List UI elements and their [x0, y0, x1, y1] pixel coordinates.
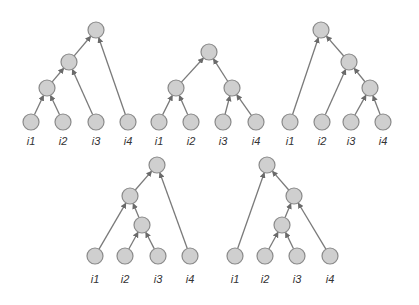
leaf-label: i3 [154, 273, 163, 285]
internal-node [168, 80, 184, 96]
tree-diagram-canvas: i1i2i3i4i1i2i3i4i1i2i3i4i1i2i3i4i1i2i3i4 [0, 0, 419, 305]
internal-node [39, 80, 55, 96]
leaf-node-i4 [375, 114, 391, 130]
tree-edge [373, 96, 380, 115]
leaf-label: i4 [326, 273, 335, 285]
internal-node [224, 80, 240, 96]
leaf-node-i4 [182, 248, 198, 264]
tree-edge [214, 59, 228, 81]
tree-edge [99, 38, 126, 114]
leaf-node-i3 [343, 114, 359, 130]
tree-edge [160, 173, 187, 248]
trees-layer: i1i2i3i4i1i2i3i4i1i2i3i4i1i2i3i4i1i2i3i4 [23, 22, 391, 285]
leaf-label: i1 [231, 273, 240, 285]
tree-edge [225, 96, 230, 114]
tree-edge [146, 233, 154, 249]
leaf-label: i2 [121, 273, 130, 285]
tree-edge [135, 171, 151, 190]
internal-node [286, 188, 302, 204]
leaf-label: i4 [186, 273, 195, 285]
leaf-label: i4 [252, 135, 261, 147]
leaf-label: i1 [27, 135, 36, 147]
internal-node [274, 217, 290, 233]
leaf-node-i3 [88, 114, 104, 130]
tree-edge [179, 96, 187, 115]
leaf-node-i2 [257, 248, 273, 264]
tree-2: i1i2i3i4 [151, 44, 264, 147]
tree-edge [293, 38, 319, 114]
tree-edge [325, 70, 345, 115]
tree-edge [99, 203, 126, 249]
tree-edge [354, 69, 365, 82]
internal-node [149, 157, 165, 173]
tree-edge [269, 232, 278, 249]
tree-edge [273, 171, 289, 190]
internal-node [201, 44, 217, 60]
tree-edge [285, 204, 291, 218]
internal-node [134, 217, 150, 233]
leaf-node-i1 [151, 114, 167, 130]
leaf-node-i2 [55, 114, 71, 130]
tree-edge [327, 36, 344, 56]
leaf-label: i3 [92, 135, 101, 147]
tree-edge [238, 173, 265, 248]
leaf-label: i3 [293, 273, 302, 285]
tree-edge [237, 95, 251, 116]
internal-node [341, 54, 357, 70]
internal-node [88, 22, 104, 38]
leaf-label: i2 [318, 135, 327, 147]
tree-edge [133, 204, 139, 218]
leaf-node-i1 [23, 114, 39, 130]
tree-3: i1i2i3i4 [282, 22, 391, 147]
internal-node [122, 188, 138, 204]
leaf-label: i3 [219, 135, 228, 147]
leaf-label: i1 [155, 135, 164, 147]
tree-1: i1i2i3i4 [23, 22, 136, 147]
tree-edge [72, 70, 92, 115]
leaf-label: i1 [286, 135, 295, 147]
leaf-node-i2 [314, 114, 330, 130]
leaf-node-i1 [87, 248, 103, 264]
tree-edge [298, 203, 326, 249]
leaf-node-i3 [289, 248, 305, 264]
leaf-label: i4 [379, 135, 388, 147]
leaf-label: i2 [261, 273, 270, 285]
tree-4: i1i2i3i4 [87, 157, 198, 285]
leaf-node-i2 [117, 248, 133, 264]
tree-edge [34, 96, 43, 115]
tree-edge [355, 95, 366, 115]
leaf-label: i2 [187, 135, 196, 147]
tree-edge [52, 68, 63, 81]
internal-node [313, 22, 329, 38]
leaf-node-i4 [322, 248, 338, 264]
leaf-label: i3 [347, 135, 356, 147]
leaf-node-i2 [183, 114, 199, 130]
internal-node [362, 80, 378, 96]
leaf-label: i1 [91, 273, 100, 285]
leaf-node-i3 [215, 114, 231, 130]
tree-edge [74, 36, 90, 55]
internal-node [259, 157, 275, 173]
leaf-node-i4 [248, 114, 264, 130]
internal-node [61, 54, 77, 70]
leaf-label: i4 [124, 135, 133, 147]
leaf-label: i2 [59, 135, 68, 147]
tree-edge [181, 58, 203, 82]
tree-5: i1i2i3i4 [227, 157, 338, 285]
tree-edge [51, 96, 60, 115]
leaf-node-i4 [120, 114, 136, 130]
tree-edge [129, 232, 138, 249]
leaf-node-i3 [150, 248, 166, 264]
leaf-node-i1 [227, 248, 243, 264]
tree-edge [163, 96, 173, 115]
tree-edge [286, 233, 294, 249]
leaf-node-i1 [282, 114, 298, 130]
